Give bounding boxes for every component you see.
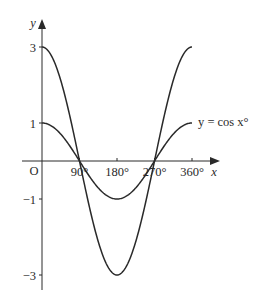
x-axis-label: x <box>210 165 217 179</box>
cosine-graph: y x O y = cos x° 90°180°270°360°31−1−3 <box>0 0 261 301</box>
origin-label: O <box>29 164 38 178</box>
x-tick-label: 360° <box>180 165 204 179</box>
series-label-cos: y = cos x° <box>198 115 249 129</box>
y-axis-label: y <box>28 16 36 30</box>
y-tick-label: −3 <box>23 269 36 283</box>
axes <box>22 19 220 290</box>
x-tick-label: 270° <box>143 165 167 179</box>
x-tick-label: 180° <box>105 165 129 179</box>
y-tick-label: 3 <box>30 41 36 55</box>
y-tick-label: 1 <box>30 117 36 131</box>
y-tick-label: −1 <box>23 193 36 207</box>
x-axis-arrow-icon <box>210 157 220 165</box>
x-tick-label: 90° <box>71 165 89 179</box>
y-axis-arrow-icon <box>38 19 46 29</box>
